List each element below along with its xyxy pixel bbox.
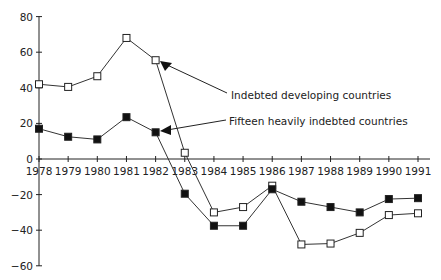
filled-square-marker (181, 190, 188, 197)
filled-square-marker (298, 198, 305, 205)
x-tick-label: 1980 (84, 165, 111, 177)
y-tick-label: 20 (20, 117, 33, 129)
open-square-marker (298, 241, 305, 248)
open-square-marker (385, 212, 392, 219)
y-tick-label: 40 (20, 82, 33, 94)
x-tick-label: 1987 (288, 165, 315, 177)
x-tick-label: 1991 (405, 165, 432, 177)
x-tick-label: 1982 (142, 165, 169, 177)
filled-square-marker (240, 222, 247, 229)
filled-square-marker (65, 133, 72, 140)
annotation-arrow-developing (165, 64, 227, 93)
filled-square-marker (356, 209, 363, 216)
annotation-label-developing: Indebted developing countries (231, 89, 391, 101)
y-tick-label: 0 (26, 153, 33, 165)
x-tick-label: 1989 (346, 165, 373, 177)
annotation-label-fifteen: Fifteen heavily indebted countries (229, 115, 408, 127)
open-square-marker (152, 57, 159, 64)
open-square-marker (181, 149, 188, 156)
y-tick-label: −20 (11, 189, 33, 201)
filled-square-marker (269, 186, 276, 193)
x-tick-label: 1978 (26, 165, 53, 177)
y-tick-label: 80 (20, 11, 33, 23)
arrowhead-fifteen-icon (160, 125, 171, 135)
x-tick-label: 1986 (259, 165, 286, 177)
open-square-marker (36, 81, 43, 88)
x-tick-label: 1988 (317, 165, 344, 177)
filled-square-marker (327, 204, 334, 211)
annotations: Indebted developing countries Fifteen he… (160, 61, 408, 135)
open-square-marker (123, 34, 130, 41)
open-square-marker (210, 209, 217, 216)
filled-square-marker (94, 136, 101, 143)
open-square-marker (356, 229, 363, 236)
open-square-marker (65, 83, 72, 90)
y-tick-label: 60 (20, 46, 33, 58)
open-square-marker (415, 210, 422, 217)
x-tick-label: 1981 (113, 165, 140, 177)
filled-square-marker (36, 125, 43, 132)
filled-square-marker (385, 196, 392, 203)
line-chart: 806040200−20−40−60 197819791980198119821… (0, 0, 441, 280)
x-tick-label: 1979 (55, 165, 82, 177)
y-tick-label: −60 (11, 260, 33, 272)
y-tick-label: −40 (11, 224, 33, 236)
x-tick-label: 1984 (201, 165, 228, 177)
filled-square-marker (152, 129, 159, 136)
x-axis: 1978197919801981198219831984198519861987… (26, 156, 432, 177)
open-square-marker (94, 73, 101, 80)
filled-square-marker (123, 114, 130, 121)
filled-square-marker (415, 195, 422, 202)
y-axis: 806040200−20−40−60 (11, 11, 42, 272)
x-tick-label: 1985 (230, 165, 257, 177)
open-square-marker (327, 240, 334, 247)
x-tick-label: 1990 (375, 165, 402, 177)
open-square-marker (240, 204, 247, 211)
filled-square-marker (210, 222, 217, 229)
